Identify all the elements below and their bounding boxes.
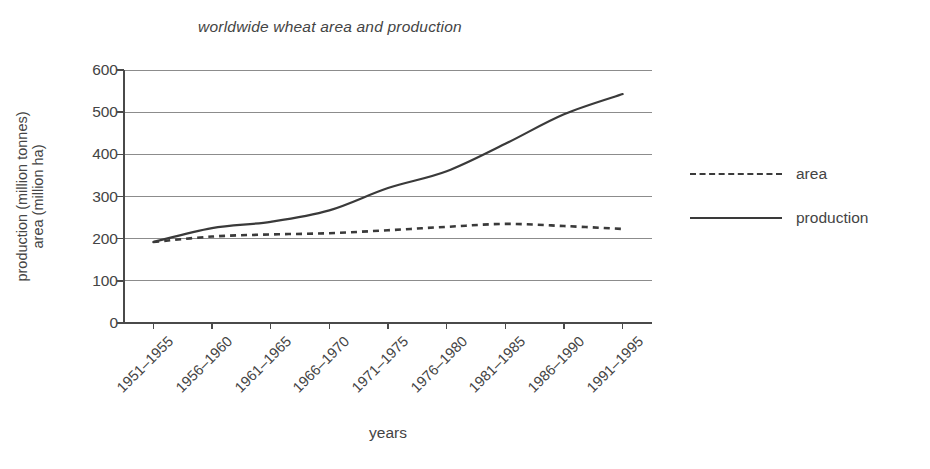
legend-label-area: area — [796, 165, 827, 183]
legend-item-area: area — [690, 152, 920, 196]
legend-key-area-icon — [690, 167, 782, 181]
legend-label-production: production — [796, 209, 868, 227]
chart-legend: area production — [690, 152, 920, 240]
legend-item-production: production — [690, 196, 920, 240]
legend-key-production-icon — [690, 211, 782, 225]
x-axis-label: years — [124, 424, 652, 442]
chart-figure: worldwide wheat area and production area… — [0, 0, 930, 469]
